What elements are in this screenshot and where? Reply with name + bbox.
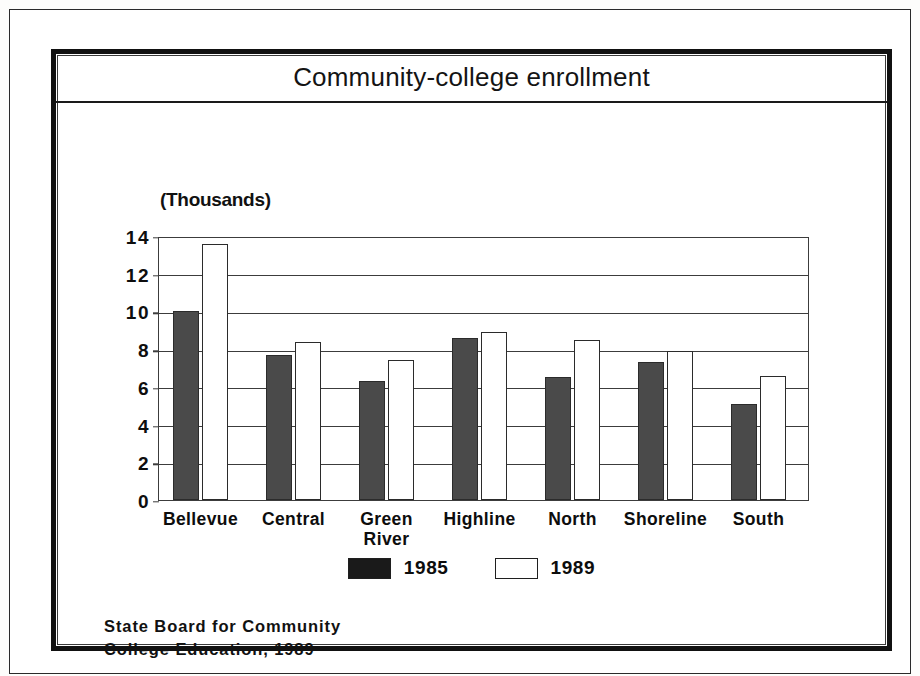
y-axis-tick-label: 8	[138, 340, 150, 362]
y-axis-tick-mark	[153, 501, 159, 502]
bar-green-river-1985	[359, 381, 385, 500]
y-axis-tick-label: 10	[126, 302, 150, 324]
x-axis-category-label: Central	[262, 509, 325, 529]
bar-group: South	[717, 238, 810, 500]
y-axis-tick-label: 2	[138, 453, 150, 475]
filled-black-swatch	[348, 558, 391, 579]
scanned-page: Community-college enrollment (Thousands)…	[0, 0, 920, 676]
x-axis-category-label: Highline	[443, 509, 515, 529]
bar-highline-1989	[481, 332, 507, 500]
outer-border-frame: Community-college enrollment (Thousands)…	[9, 9, 911, 674]
bar-central-1985	[266, 355, 292, 500]
bar-north-1989	[574, 340, 600, 500]
bar-north-1985	[545, 377, 571, 500]
bar-group: Bellevue	[159, 238, 252, 500]
title-bar: Community-college enrollment	[56, 54, 887, 103]
bar-bellevue-1985	[173, 311, 199, 500]
outlined-white-swatch	[495, 558, 538, 579]
y-axis-units-label: (Thousands)	[160, 189, 271, 211]
source-note: State Board for Community College Educat…	[104, 615, 341, 662]
chart-body: (Thousands) 02468101214BellevueCentralGr…	[56, 103, 887, 646]
bar-group: GreenRiver	[345, 238, 438, 500]
x-axis-category-label: GreenRiver	[360, 509, 413, 549]
page-title: Community-college enrollment	[293, 62, 650, 93]
legend-label: 1989	[551, 557, 596, 579]
bar-shoreline-1985	[638, 362, 664, 500]
plot-area: 02468101214BellevueCentralGreenRiverHigh…	[158, 237, 809, 501]
legend-item-1989: 1989	[495, 557, 596, 579]
legend-label: 1985	[404, 557, 449, 579]
bar-green-river-1989	[388, 360, 414, 500]
bar-highline-1985	[452, 338, 478, 500]
chart-legend: 19851989	[56, 557, 887, 579]
x-axis-category-label: North	[548, 509, 597, 529]
legend-item-1985: 1985	[348, 557, 449, 579]
x-axis-category-label: Bellevue	[163, 509, 238, 529]
bar-central-1989	[295, 342, 321, 500]
source-note-line-1: State Board for Community	[104, 615, 341, 638]
x-axis-category-label: Shoreline	[624, 509, 707, 529]
x-axis-category-label: South	[733, 509, 785, 529]
source-note-line-2: College Education, 1989	[104, 638, 341, 661]
y-axis-tick-label: 14	[126, 227, 150, 249]
bar-group: North	[531, 238, 624, 500]
y-axis-tick-label: 0	[138, 491, 150, 513]
bar-group: Shoreline	[624, 238, 717, 500]
bar-south-1985	[731, 404, 757, 500]
bar-group: Highline	[438, 238, 531, 500]
chart-card-frame: Community-college enrollment (Thousands)…	[51, 49, 892, 651]
y-axis-tick-label: 4	[138, 416, 150, 438]
bar-group: Central	[252, 238, 345, 500]
y-axis-tick-label: 12	[126, 265, 150, 287]
bar-shoreline-1989	[667, 351, 693, 500]
y-axis-tick-label: 6	[138, 378, 150, 400]
bar-bellevue-1989	[202, 244, 228, 500]
bar-south-1989	[760, 376, 786, 500]
